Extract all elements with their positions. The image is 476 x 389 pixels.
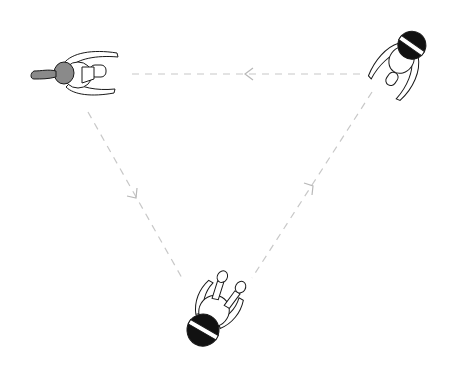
dashed-paths bbox=[88, 74, 372, 278]
head bbox=[54, 62, 74, 84]
person-left-figure bbox=[31, 51, 118, 95]
path-right bbox=[252, 92, 372, 278]
path-left bbox=[88, 112, 182, 278]
triangle-diagram bbox=[0, 0, 476, 389]
ponytail bbox=[31, 70, 56, 79]
person-right-figure bbox=[365, 22, 439, 102]
person-bottom-figure bbox=[176, 265, 253, 355]
legs bbox=[82, 67, 94, 83]
arrowheads bbox=[127, 68, 313, 198]
